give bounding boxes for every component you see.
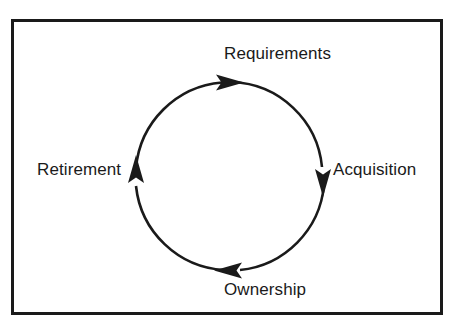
node-label-ownership: Ownership: [224, 280, 306, 300]
node-label-requirements: Requirements: [224, 44, 331, 64]
node-label-acquisition: Acquisition: [333, 160, 416, 180]
node-label-retirement: Retirement: [37, 160, 121, 180]
diagram-canvas: Requirements Acquisition Ownership Retir…: [0, 0, 456, 330]
